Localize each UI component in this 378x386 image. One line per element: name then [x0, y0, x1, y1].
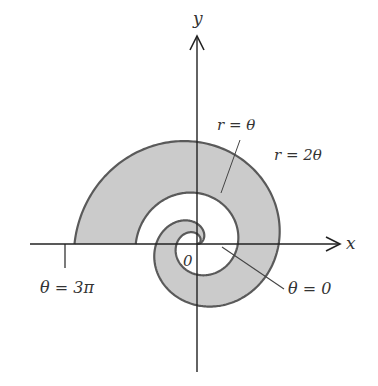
origin-label: 0: [183, 252, 193, 270]
polar-spiral-diagram: y x 0 r = θ r = 2θ θ = 3π θ = 0: [0, 0, 378, 386]
label-theta-0: θ = 0: [288, 279, 331, 298]
y-axis-label: y: [192, 8, 203, 28]
label-theta-3pi: θ = 3π: [40, 278, 94, 297]
x-axis-label: x: [346, 233, 356, 253]
label-r-2theta: r = 2θ: [274, 146, 322, 164]
label-r-theta: r = θ: [217, 116, 255, 134]
